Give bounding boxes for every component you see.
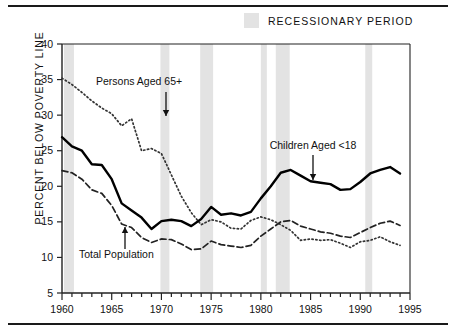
children-under-18-arrow-head <box>310 174 316 180</box>
x-tick-label: 1990 <box>349 303 373 315</box>
x-tick-label: 1995 <box>398 303 422 315</box>
y-tick-label: 20 <box>41 180 53 192</box>
y-tick-label: 5 <box>47 287 53 299</box>
y-tick-label: 30 <box>41 109 53 121</box>
x-tick-label: 1985 <box>299 303 323 315</box>
y-tick-label: 40 <box>41 38 53 50</box>
chart-svg: 510152025303540 196019651970197519801985… <box>0 0 456 335</box>
plot-area: 510152025303540 196019651970197519801985… <box>0 0 456 335</box>
total-population-arrow-head <box>122 227 128 233</box>
recession-band <box>276 44 290 293</box>
recession-band <box>365 44 372 293</box>
data-series-group <box>62 78 400 249</box>
y-tick-label: 15 <box>41 215 53 227</box>
x-tick-label: 1960 <box>50 303 74 315</box>
recession-band <box>200 44 213 293</box>
x-tick-label: 1970 <box>150 303 174 315</box>
x-tick-label: 1980 <box>249 303 273 315</box>
recession-band <box>261 44 267 293</box>
x-tick-labels-group: 19601965197019751980198519901995 <box>50 303 422 315</box>
x-tick-label: 1975 <box>199 303 223 315</box>
y-tick-label: 35 <box>41 73 53 85</box>
series-line-persons-aged-65 <box>62 78 400 247</box>
annotations-group: Persons Aged 65+Total PopulationChildren… <box>79 75 357 260</box>
y-tick-label: 25 <box>41 144 53 156</box>
y-tick-labels-group: 510152025303540 <box>41 38 53 299</box>
x-tick-label: 1965 <box>100 303 124 315</box>
figure-container: RECESSIONARY PERIOD PERCENT BELOW POVERT… <box>0 0 456 335</box>
annotation-children-under-18: Children Aged <18 <box>270 139 357 151</box>
annotation-persons-65-plus: Persons Aged 65+ <box>96 75 182 87</box>
annotation-total-population: Total Population <box>79 248 154 260</box>
y-tick-label: 10 <box>41 251 53 263</box>
